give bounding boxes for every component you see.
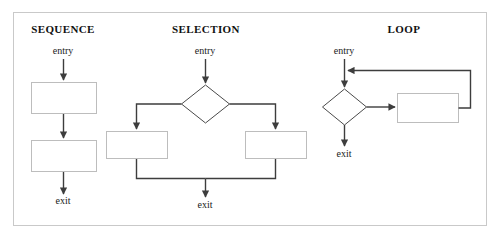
sequence-entry-label: entry (53, 45, 74, 56)
selection-structure (107, 59, 307, 197)
panel-title-loop: LOOP (388, 23, 421, 35)
loop-process-box (398, 94, 459, 123)
panel-title-sequence: SEQUENCE (31, 23, 95, 35)
sequence-exit-label: exit (56, 195, 71, 206)
loop-decision-diamond (323, 89, 367, 125)
sequence-process-box-1 (32, 83, 97, 114)
selection-process-box-left (107, 132, 168, 159)
diagram-canvas: SEQUENCE entry exit SELECTION entry exit… (0, 0, 500, 238)
selection-exit-label: exit (198, 199, 213, 210)
selection-entry-label: entry (195, 45, 216, 56)
panel-title-selection: SELECTION (172, 23, 240, 35)
flowchart-graphics (0, 0, 500, 238)
selection-left-branch-arrow (137, 104, 182, 129)
selection-merge-left-line (137, 159, 206, 179)
selection-process-box-right (246, 132, 307, 159)
loop-exit-label: exit (337, 148, 352, 159)
selection-decision-diamond (182, 85, 230, 123)
loop-entry-label: entry (334, 45, 355, 56)
loop-structure (323, 59, 471, 146)
selection-right-branch-arrow (230, 104, 276, 129)
selection-merge-right-line (206, 159, 276, 179)
sequence-structure (32, 59, 97, 194)
sequence-process-box-2 (32, 141, 97, 172)
